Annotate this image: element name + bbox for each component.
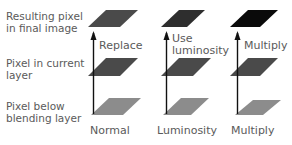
row-label-below-line2: blending layer <box>6 112 81 124</box>
row-label-current: Pixel in current layer <box>6 57 84 81</box>
current-pixel-normal <box>88 58 138 76</box>
column-luminosity <box>161 10 211 115</box>
operation-label-luminosity: Use luminosity <box>172 33 229 57</box>
mode-label-luminosity: Luminosity <box>157 125 217 137</box>
below-pixel-normal <box>91 98 141 115</box>
arrowhead-icon-normal <box>91 31 97 40</box>
result-pixel-multiply <box>230 10 278 27</box>
below-pixel-luminosity <box>163 98 209 115</box>
below-pixel-multiply <box>235 100 281 115</box>
row-label-current-line2: layer <box>6 69 84 81</box>
row-label-current-line1: Pixel in current <box>6 57 84 69</box>
operation-label-multiply-line1: Multiply <box>244 40 287 52</box>
operation-label-normal: Replace <box>99 40 143 52</box>
row-label-result-line1: Resulting pixel <box>6 10 83 22</box>
arrowhead-icon-luminosity <box>164 31 170 40</box>
row-label-below: Pixel below blending layer <box>6 100 81 124</box>
operation-label-luminosity-line2: luminosity <box>172 45 229 57</box>
operation-label-multiply: Multiply <box>244 40 287 52</box>
operation-label-normal-line1: Replace <box>99 40 143 52</box>
row-label-below-line1: Pixel below <box>6 100 81 112</box>
column-normal <box>88 10 141 115</box>
column-multiply <box>230 10 281 115</box>
mode-label-multiply: Multiply <box>231 125 274 137</box>
arrowhead-icon-multiply <box>235 31 241 40</box>
row-label-result: Resulting pixel in final image <box>6 10 83 34</box>
result-pixel-luminosity <box>161 10 205 27</box>
result-pixel-normal <box>88 10 138 27</box>
mode-label-normal: Normal <box>90 125 130 137</box>
row-label-result-line2: in final image <box>6 22 83 34</box>
current-pixel-luminosity <box>161 58 211 76</box>
